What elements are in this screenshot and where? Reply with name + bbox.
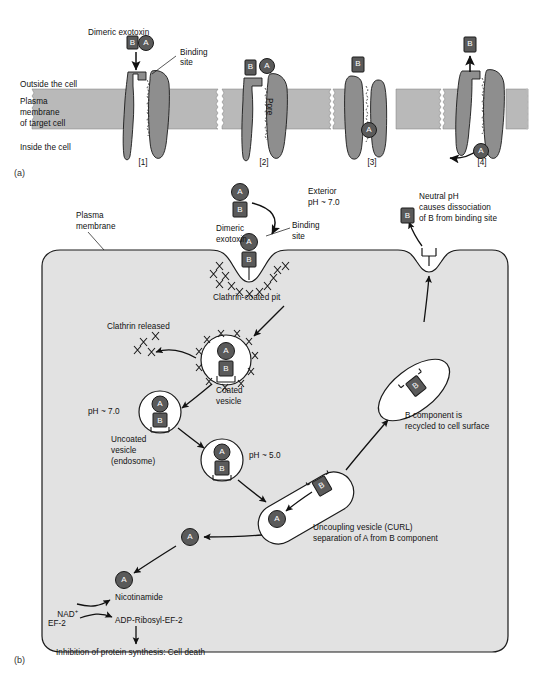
panel-a-step-tag-4: [4] (472, 158, 492, 167)
coated-vesicle (196, 330, 258, 391)
panel-a-step1-b-letter: B (127, 38, 138, 48)
panel-b-curl-line2: separation of A from B component (313, 534, 438, 544)
panel-b-dissociated-b-letter: B (401, 211, 414, 221)
panel-b-ph-70-label: pH ~ 7.0 (88, 407, 120, 417)
panel-b-uncoated-vesicle-b-letter: B (153, 416, 167, 426)
panel-b-neutral-ph-line1: Neutral pH (419, 192, 459, 202)
panel-b-dimeric-exotoxin-line1: Dimeric (216, 224, 244, 234)
panel-a-step2-b-letter: B (245, 62, 256, 72)
panel-b-recycled-line2: recycled to cell surface (405, 422, 489, 432)
panel-b-free-a-letter-2: A (116, 575, 132, 585)
panel-a-outside-label: Outside the cell (20, 80, 77, 90)
panel-b-docked-toxin-a-letter: A (241, 237, 257, 247)
panel-b-uncoated-vesicle-line1: Uncoated (111, 435, 146, 445)
panel-b-coated-vesicle-line1: Coated (216, 386, 243, 396)
panel-a-plasma-membrane-line1: Plasma (20, 97, 48, 107)
panel-a-tag: (a) (14, 168, 25, 178)
panel-b-free-toxin-a-letter: A (232, 187, 248, 197)
panel-b-exterior-line1: Exterior (308, 187, 337, 197)
panel-b-free-a-letter-1: A (182, 532, 198, 542)
uncoated-vesicle (139, 391, 181, 433)
panel-b-coated-vesicle-b-letter: B (219, 364, 233, 374)
panel-b-endosome-a-letter: A (214, 447, 230, 457)
panel-a-pore-label: Pore (265, 98, 274, 115)
panel-a-plasma-membrane-line2: membrane (20, 108, 60, 118)
panel-b-coated-vesicle-a-letter: A (218, 346, 234, 356)
panel-a-binding-site-label-line2: site (180, 58, 193, 68)
panel-b-binding-site-line2: site (292, 232, 305, 242)
panel-b-uncoated-vesicle-a-letter: A (152, 399, 168, 409)
panel-a-step4-b-letter: B (464, 39, 476, 49)
panel-b-docked-toxin-b-letter: B (242, 255, 256, 265)
empty-receptor (422, 248, 436, 266)
step2-receptor (242, 74, 288, 161)
panel-a-inside-label: Inside the cell (20, 143, 71, 153)
reaction-ef2-label: EF-2 (48, 619, 66, 629)
panel-b-clathrin-coated-pit-label: Clathrin-coated pit (213, 293, 280, 303)
acidified-endosome (201, 439, 243, 481)
panel-b-curl-b-letter: B (313, 478, 330, 494)
panel-b-coated-vesicle-line2: vesicle (216, 397, 241, 407)
panel-a-plasma-membrane-line3: of target cell (20, 119, 65, 129)
panel-a-artwork (32, 52, 528, 161)
panel-b-free-toxin-b-letter: B (233, 205, 247, 215)
panel-a-step3-a-letter: A (362, 125, 376, 135)
panel-a-binding-site-label-line1: Binding (180, 48, 208, 58)
reaction-nad-text: NAD (57, 610, 74, 619)
reaction-adp-ribosyl-label: ADP-Ribosyl-EF-2 (115, 616, 183, 626)
step1-receptor (123, 52, 176, 160)
panel-b-curl-a-letter: A (269, 514, 285, 524)
figure-container: Dimeric exotoxin Binding site Outside th… (0, 0, 543, 676)
panel-a-dimeric-exotoxin-label: Dimeric exotoxin (88, 28, 149, 38)
panel-b-ph-50-label: pH ~ 5.0 (249, 451, 281, 461)
step3-receptor (345, 76, 387, 159)
reaction-outcome-label: Inhibition of protein synthesis: Cell de… (56, 648, 205, 658)
panel-a-step2-a-letter: A (260, 61, 274, 71)
panel-a-step3-b-letter: B (352, 59, 364, 69)
panel-a-step1-a-letter: A (139, 38, 153, 48)
membrane-bands (32, 89, 528, 129)
panel-b-recycled-line1: B component is (405, 411, 462, 421)
panel-a-step-tag-3: [3] (362, 158, 382, 167)
toxin-glyphs (116, 36, 489, 589)
step4-receptor (450, 56, 504, 158)
panel-b-neutral-ph-line2: causes dissociation (419, 203, 491, 213)
panel-b-plasma-membrane-line2: membrane (76, 222, 116, 232)
panel-b-uncoated-vesicle-line3: (endosome) (111, 457, 155, 467)
panel-b-curl-line1: Uncoupling vesicle (CURL) (313, 523, 413, 533)
reaction-nad-superscript: + (75, 608, 79, 614)
panel-a-step-tag-2: [2] (254, 158, 274, 167)
reaction-nicotinamide-label: Nicotinamide (115, 593, 163, 603)
panel-b-plasma-membrane-line1: Plasma (76, 211, 104, 221)
panel-b-binding-site-line1: Binding (292, 221, 320, 231)
panel-b-neutral-ph-line3: of B from binding site (419, 214, 497, 224)
panel-b-exterior-ph: pH ~ 7.0 (308, 198, 340, 208)
panel-a-step-tag-1: [1] (133, 158, 153, 167)
panel-a-step4-a-letter: A (474, 146, 488, 156)
released-clathrin (134, 332, 159, 356)
panel-b-clathrin-released-label: Clathrin released (107, 322, 170, 332)
panel-b-endosome-b-letter: B (215, 464, 229, 474)
panel-b-tag: (b) (14, 655, 25, 665)
panel-b-recycling-b-letter: B (407, 378, 424, 395)
panel-b-uncoated-vesicle-line2: vesicle (111, 446, 136, 456)
